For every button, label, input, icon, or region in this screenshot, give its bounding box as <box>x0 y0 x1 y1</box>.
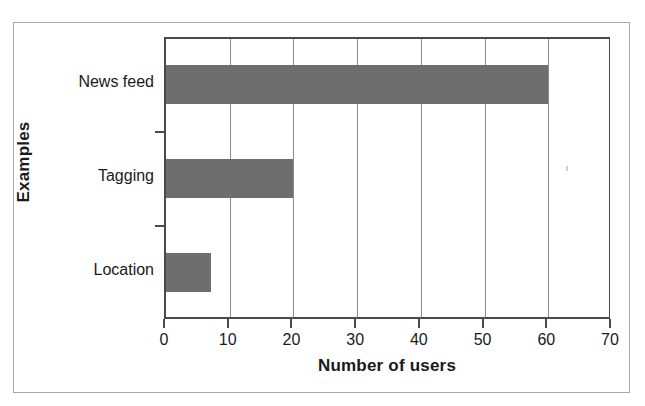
x-axis-tick-0 <box>163 319 165 328</box>
x-axis-tick-label-0: 0 <box>142 331 186 349</box>
x-axis-tick-40 <box>418 319 420 328</box>
x-axis-tick-label-30: 30 <box>333 331 377 349</box>
bar-tagging[interactable] <box>166 159 293 198</box>
x-axis-tick-label-20: 20 <box>269 331 313 349</box>
x-axis-tick-70 <box>609 319 611 328</box>
bar-row <box>166 133 612 227</box>
x-axis-tick-label-70: 70 <box>588 331 632 349</box>
scan-artifact <box>566 166 568 171</box>
y-axis-title: Examples <box>14 102 34 222</box>
figure-container: Examples Number of users News feedTaggin… <box>0 0 645 406</box>
x-axis-tick-label-50: 50 <box>461 331 505 349</box>
bar-row <box>166 39 612 133</box>
x-axis-title: Number of users <box>164 356 610 376</box>
x-axis-tick-label-40: 40 <box>397 331 441 349</box>
x-axis-tick-60 <box>545 319 547 328</box>
plot-area <box>164 37 610 319</box>
y-axis-label-news-feed: News feed <box>4 73 154 91</box>
y-axis-label-tagging: Tagging <box>4 167 154 185</box>
bar-location[interactable] <box>166 253 211 292</box>
x-axis-tick-50 <box>482 319 484 328</box>
x-axis-tick-10 <box>227 319 229 328</box>
bar-row <box>166 227 612 321</box>
x-axis-tick-label-10: 10 <box>206 331 250 349</box>
x-axis-tick-30 <box>354 319 356 328</box>
y-axis-tick <box>155 131 164 133</box>
x-axis-tick-20 <box>290 319 292 328</box>
x-axis-tick-label-60: 60 <box>524 331 568 349</box>
y-axis-label-location: Location <box>4 261 154 279</box>
y-axis-tick <box>155 225 164 227</box>
bar-news-feed[interactable] <box>166 65 548 104</box>
